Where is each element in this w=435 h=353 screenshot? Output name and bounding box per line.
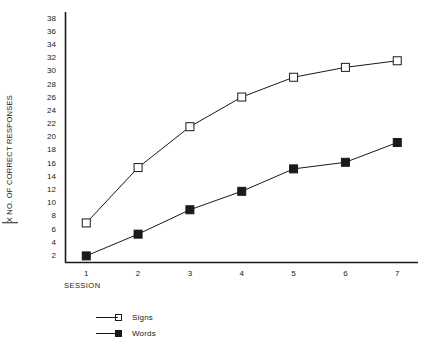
- data-point-words[interactable]: [290, 165, 298, 173]
- y-tick-label: 22: [38, 119, 56, 128]
- data-point-words[interactable]: [82, 252, 90, 260]
- y-tick-label: 6: [38, 225, 56, 234]
- y-tick-label: 10: [38, 198, 56, 207]
- data-point-signs[interactable]: [238, 93, 246, 101]
- y-tick-label: 18: [38, 145, 56, 154]
- x-tick-label: 5: [287, 269, 301, 278]
- x-tick-label: 3: [183, 269, 197, 278]
- legend-line-words: [96, 333, 118, 334]
- data-point-signs[interactable]: [393, 57, 401, 65]
- data-point-signs[interactable]: [290, 73, 298, 81]
- y-tick-label: 28: [38, 80, 56, 89]
- x-tick-label: 1: [79, 269, 93, 278]
- y-tick-label: 30: [38, 66, 56, 75]
- legend-item-signs[interactable]: Signs: [96, 309, 156, 325]
- legend-line-signs: [96, 317, 118, 318]
- y-tick-label: 8: [38, 211, 56, 220]
- legend: Signs Words: [96, 309, 156, 341]
- series-line-signs: [86, 61, 397, 223]
- data-point-words[interactable]: [186, 206, 194, 214]
- data-point-signs[interactable]: [186, 123, 194, 131]
- data-point-words[interactable]: [341, 158, 349, 166]
- series-group: [82, 57, 401, 260]
- legend-label-signs: Signs: [132, 313, 153, 322]
- data-point-words[interactable]: [238, 187, 246, 195]
- data-point-words[interactable]: [393, 139, 401, 147]
- data-point-signs[interactable]: [82, 219, 90, 227]
- y-tick-label: 4: [38, 238, 56, 247]
- data-point-signs[interactable]: [134, 164, 142, 172]
- y-tick-label: 2: [38, 251, 56, 260]
- y-tick-label: 32: [38, 53, 56, 62]
- y-tick-label: 24: [38, 106, 56, 115]
- axis-lines: [65, 12, 418, 263]
- legend-label-words: Words: [132, 329, 156, 338]
- x-tick-label: 2: [131, 269, 145, 278]
- y-tick-label: 16: [38, 159, 56, 168]
- x-tick-label: 7: [390, 269, 404, 278]
- data-point-words[interactable]: [134, 230, 142, 238]
- chart-container: X NO. OF CORRECT RESPONSES SESSION 24681…: [0, 0, 435, 353]
- y-tick-label: 14: [38, 172, 56, 181]
- plot-area: [0, 0, 435, 353]
- y-tick-label: 20: [38, 132, 56, 141]
- y-tick-label: 26: [38, 93, 56, 102]
- x-tick-label: 4: [235, 269, 249, 278]
- legend-item-words[interactable]: Words: [96, 325, 156, 341]
- x-tick-label: 6: [338, 269, 352, 278]
- series-line-words: [86, 143, 397, 256]
- data-point-signs[interactable]: [341, 63, 349, 71]
- y-tick-label: 12: [38, 185, 56, 194]
- y-tick-label: 36: [38, 27, 56, 36]
- y-tick-label: 38: [38, 14, 56, 23]
- y-tick-label: 34: [38, 40, 56, 49]
